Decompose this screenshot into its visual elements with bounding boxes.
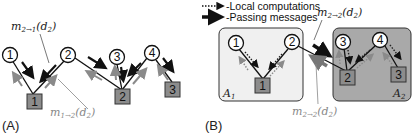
diagram-canvas: 1 2 3 4 1 2 3 m2→1(d2) m1→2(d2) (0, 0, 413, 138)
legend-passing-messages: -Passing messages (226, 11, 318, 23)
message-label-b-gray: m2→2(d2) (292, 105, 337, 119)
factor-node-2: 2 (115, 89, 130, 104)
variable-node-3: 3 (110, 50, 125, 65)
panel-a-gray-arrows (14, 67, 168, 88)
arrow-f1-to-v1 (14, 74, 22, 86)
b-factor-node-2: 2 (340, 70, 355, 85)
arrow-f3-to-v4 (159, 67, 168, 80)
svg-text:1: 1 (7, 48, 14, 62)
edge-v4-f3 (156, 60, 172, 82)
edge-v4-f2 (122, 58, 147, 90)
arrow-f2-to-v2 (88, 72, 102, 80)
panel-a: 1 2 3 4 1 2 3 m2→1(d2) m1→2(d2) (2, 20, 180, 133)
callout-b-dark (314, 20, 322, 40)
svg-text:3: 3 (169, 83, 176, 97)
svg-text:1: 1 (233, 36, 240, 50)
svg-text:2: 2 (65, 48, 72, 62)
variable-node-2: 2 (61, 48, 76, 63)
svg-text:1: 1 (31, 95, 38, 109)
panel-a-label: (A) (2, 118, 19, 133)
svg-text:1: 1 (259, 79, 266, 93)
svg-text:2: 2 (289, 35, 296, 49)
b-variable-node-2: 2 (285, 35, 300, 50)
svg-text:3: 3 (340, 35, 347, 49)
b-factor-node-3: 3 (391, 67, 406, 82)
arrow-v3-to-f2 (121, 67, 123, 79)
arrow-v2-to-f2 (88, 57, 104, 67)
svg-text:3: 3 (395, 68, 402, 82)
panel-b: -Local computations -Passing messages A1… (202, 0, 411, 133)
arrow-v4-to-f3 (163, 58, 172, 70)
factor-node-3: 3 (165, 82, 180, 97)
edge-v2-f1 (33, 60, 65, 94)
passing-arrow-a1-to-a2 (313, 45, 327, 54)
svg-text:3: 3 (114, 50, 121, 64)
panel-a-edges (12, 58, 172, 94)
svg-text:2: 2 (119, 90, 126, 104)
arrow-f2-to-v3 (115, 68, 116, 80)
message-label-b-dark: m2→2(d2) (317, 6, 362, 20)
factor-node-1: 1 (27, 94, 42, 109)
callout-m21 (40, 34, 49, 63)
message-label-m21: m2→1(d2) (11, 20, 56, 34)
svg-text:2: 2 (344, 71, 351, 85)
b-variable-node-3: 3 (336, 35, 351, 50)
arrow-f1-to-v2 (45, 77, 55, 88)
legend: -Local computations -Passing messages (202, 0, 320, 23)
svg-text:4: 4 (377, 33, 384, 47)
svg-text:4: 4 (149, 46, 156, 60)
variable-node-1: 1 (3, 48, 18, 63)
arrow-v1-to-f1 (22, 62, 32, 76)
b-variable-node-4: 4 (373, 33, 388, 48)
variable-node-4: 4 (145, 46, 160, 61)
panel-b-label: (B) (205, 118, 222, 133)
message-label-m12: m1→2(d2) (50, 106, 95, 120)
callout-b-gray (316, 64, 318, 104)
arrow-f2-to-v4 (133, 70, 145, 84)
callout-m12 (58, 79, 88, 109)
b-variable-node-1: 1 (229, 36, 244, 51)
b-factor-node-1: 1 (255, 78, 270, 93)
